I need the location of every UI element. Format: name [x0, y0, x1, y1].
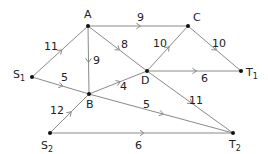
- edge-weight-label: 6: [135, 139, 142, 152]
- node-T1: [239, 69, 243, 73]
- edge-weight-label: 11: [189, 94, 203, 107]
- node-S2: [48, 131, 52, 135]
- edge-B-D: [89, 71, 147, 94]
- node-label-B: B: [86, 98, 94, 111]
- edge-weight-label: 6: [201, 72, 208, 85]
- node-label-T2: T2: [228, 138, 241, 153]
- edge-weight-label: 9: [137, 11, 144, 24]
- node-A: [86, 24, 90, 28]
- edge-A-B: [88, 26, 89, 94]
- node-label-subscript: 2: [48, 145, 53, 154]
- edge-S1-A: [32, 26, 88, 77]
- arrowheads-group: [57, 23, 216, 136]
- node-label-S1: S1: [13, 68, 25, 83]
- node-label-subscript: 1: [20, 74, 25, 83]
- node-C: [186, 24, 190, 28]
- edge-B-T2: [89, 94, 233, 133]
- node-D: [145, 69, 149, 73]
- node-label-T1: T1: [245, 66, 258, 81]
- edge-weight-label: 5: [143, 98, 150, 111]
- network-diagram: 119895410106115126 ACDT1S1BS2T2: [0, 0, 268, 154]
- node-label-D: D: [141, 74, 149, 87]
- edge-weight-label: 4: [120, 80, 127, 93]
- node-label-C: C: [193, 11, 201, 24]
- node-B: [87, 92, 91, 96]
- node-S1: [30, 75, 34, 79]
- node-label-S2: S2: [41, 139, 53, 154]
- edge-weight-label: 10: [212, 37, 226, 50]
- node-label-subscript: 1: [253, 72, 258, 81]
- node-T2: [231, 131, 235, 135]
- edge-weight-label: 11: [44, 40, 58, 53]
- node-label-subscript: 2: [236, 144, 241, 153]
- node-label-A: A: [84, 8, 92, 21]
- edge-weight-label: 12: [50, 104, 64, 117]
- edge-weights-group: 119895410106115126: [44, 11, 226, 152]
- edge-weight-label: 5: [61, 71, 68, 84]
- edge-weight-label: 10: [153, 37, 167, 50]
- edge-weight-label: 8: [121, 38, 128, 51]
- edge-weight-label: 9: [93, 54, 100, 67]
